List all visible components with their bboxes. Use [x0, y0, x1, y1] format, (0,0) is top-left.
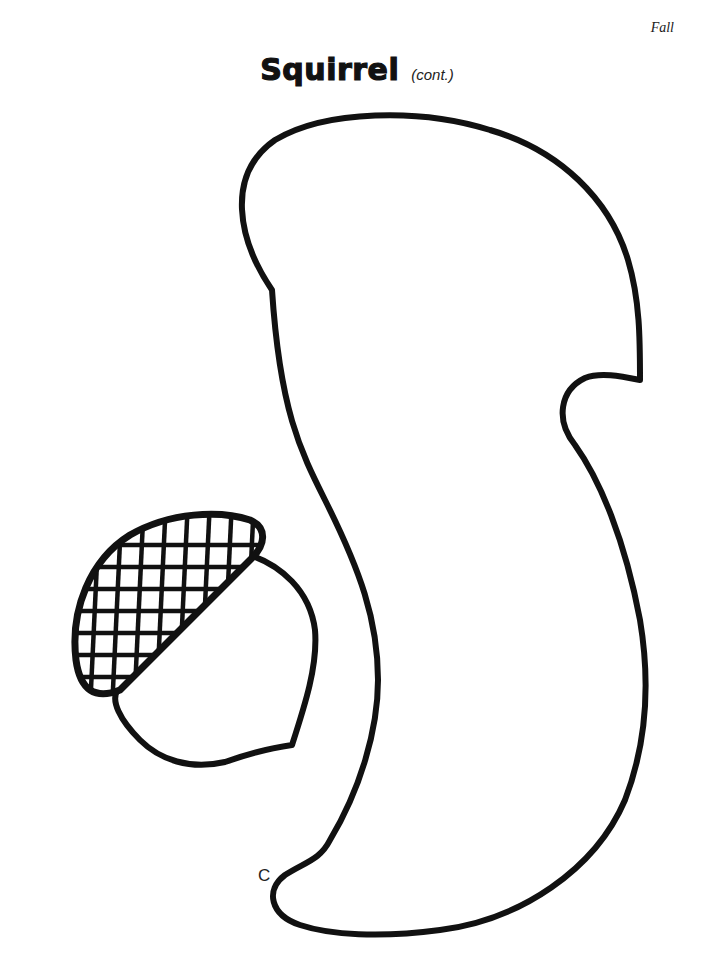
pattern-drawing [0, 0, 714, 975]
squirrel-tail-outline [242, 115, 646, 934]
pattern-piece-label: C [258, 866, 270, 886]
